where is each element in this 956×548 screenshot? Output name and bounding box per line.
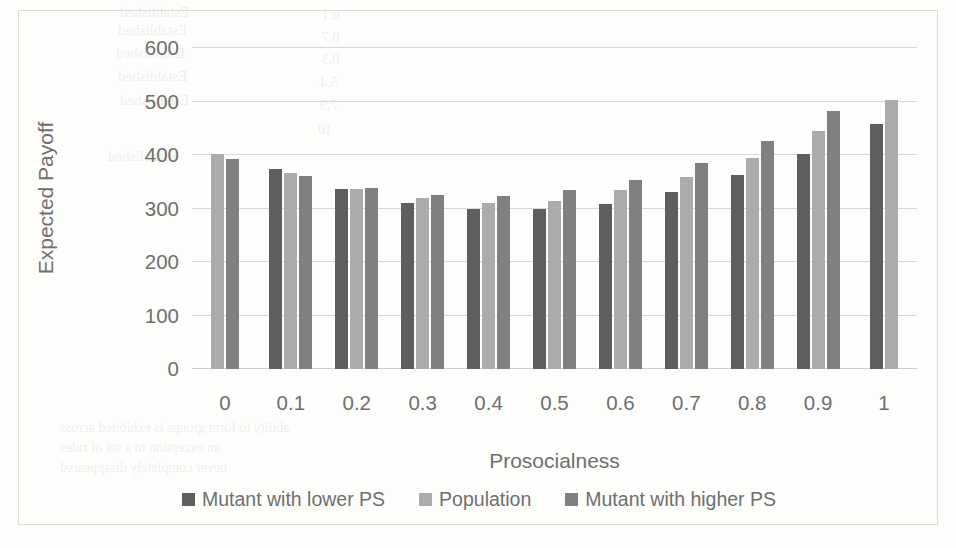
x-axis-title: Prosocialness — [192, 449, 917, 473]
bar-pop-0.3[interactable] — [416, 198, 429, 369]
bar-pop-0.2[interactable] — [350, 189, 363, 369]
bar-pop-1[interactable] — [885, 100, 898, 369]
x-axis-tick-0.3: 0.3 — [408, 391, 437, 415]
bar-lower-0.3[interactable] — [401, 203, 414, 369]
legend-item-pop[interactable]: Population — [419, 488, 531, 511]
y-axis-title: Expected Payoff — [34, 83, 58, 313]
bar-higher-0.9[interactable] — [827, 111, 840, 369]
bar-higher-0.2[interactable] — [365, 188, 378, 369]
legend-label-pop: Population — [439, 488, 531, 511]
y-axis-tick-400: 400 — [145, 143, 179, 167]
y-axis-tick-300: 300 — [145, 197, 179, 221]
legend-swatch-higher-icon — [565, 493, 578, 506]
bar-pop-0.7[interactable] — [680, 177, 693, 369]
x-axis-tick-0.6: 0.6 — [606, 391, 635, 415]
x-axis-tick-0.2: 0.2 — [343, 391, 372, 415]
bar-lower-0.8[interactable] — [731, 175, 744, 369]
bar-lower-1[interactable] — [870, 124, 883, 369]
legend-item-higher[interactable]: Mutant with higher PS — [565, 488, 776, 511]
y-axis-tick-0: 0 — [168, 357, 179, 381]
bar-higher-0.8[interactable] — [761, 141, 774, 369]
chart-frame: 0100200300400500600 00.10.20.30.40.50.60… — [18, 10, 938, 525]
bar-pop-0[interactable] — [211, 154, 224, 369]
bar-group-0.8: 0.8 — [719, 48, 785, 369]
bar-higher-0.6[interactable] — [629, 180, 642, 369]
bar-lower-0.2[interactable] — [335, 189, 348, 369]
bar-pop-0.9[interactable] — [812, 131, 825, 369]
bar-series-container: 00.10.20.30.40.50.60.70.80.91 — [192, 48, 917, 369]
bar-lower-0.6[interactable] — [599, 204, 612, 369]
x-axis-tick-0.8: 0.8 — [738, 391, 767, 415]
bar-group-0.9: 0.9 — [785, 48, 851, 369]
x-axis-tick-0.1: 0.1 — [277, 391, 306, 415]
bar-lower-0.1[interactable] — [269, 169, 282, 369]
bar-group-0.7: 0.7 — [653, 48, 719, 369]
bar-higher-0.4[interactable] — [497, 196, 510, 369]
bar-lower-0.7[interactable] — [665, 192, 678, 369]
bar-pop-0.8[interactable] — [746, 158, 759, 369]
bar-lower-0.4[interactable] — [467, 209, 480, 370]
x-axis-tick-0.7: 0.7 — [672, 391, 701, 415]
plot-area: 0100200300400500600 00.10.20.30.40.50.60… — [192, 48, 917, 369]
bar-pop-0.6[interactable] — [614, 190, 627, 369]
bar-pop-0.4[interactable] — [482, 203, 495, 369]
x-axis-tick-0: 0 — [219, 391, 230, 415]
bar-group-0.4: 0.4 — [456, 48, 522, 369]
y-axis-tick-500: 500 — [145, 90, 179, 114]
legend-label-lower: Mutant with lower PS — [202, 488, 385, 511]
legend-label-higher: Mutant with higher PS — [585, 488, 776, 511]
legend-swatch-pop-icon — [419, 493, 432, 506]
bar-pop-0.5[interactable] — [548, 201, 561, 369]
x-axis-tick-0.9: 0.9 — [804, 391, 833, 415]
y-axis-tick-600: 600 — [145, 36, 179, 60]
bar-group-0.3: 0.3 — [390, 48, 456, 369]
bar-higher-0.7[interactable] — [695, 163, 708, 369]
legend-swatch-lower-icon — [182, 493, 195, 506]
bar-group-0.5: 0.5 — [522, 48, 588, 369]
bar-group-0.6: 0.6 — [587, 48, 653, 369]
bar-higher-0.1[interactable] — [299, 176, 312, 369]
bar-higher-0.5[interactable] — [563, 190, 576, 369]
bar-group-1: 1 — [851, 48, 917, 369]
y-axis-tick-200: 200 — [145, 250, 179, 274]
bar-lower-0.5[interactable] — [533, 209, 546, 370]
x-axis-tick-0.4: 0.4 — [474, 391, 503, 415]
bar-higher-0[interactable] — [226, 159, 239, 369]
bar-group-0: 0 — [192, 48, 258, 369]
y-axis-tick-100: 100 — [145, 304, 179, 328]
x-axis-tick-1: 1 — [878, 391, 889, 415]
legend-item-lower[interactable]: Mutant with lower PS — [182, 488, 385, 511]
x-axis-tick-0.5: 0.5 — [540, 391, 569, 415]
chart-legend: Mutant with lower PSPopulationMutant wit… — [19, 488, 939, 511]
bar-lower-0.9[interactable] — [797, 154, 810, 369]
bar-pop-0.1[interactable] — [284, 173, 297, 369]
bar-higher-0.3[interactable] — [431, 195, 444, 369]
bar-group-0.2: 0.2 — [324, 48, 390, 369]
bar-group-0.1: 0.1 — [258, 48, 324, 369]
